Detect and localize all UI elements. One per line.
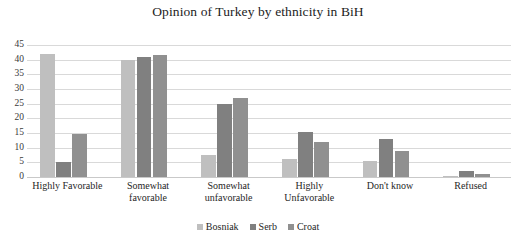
plot-area	[27, 45, 511, 177]
legend-item-bosniak[interactable]: Bosniak	[197, 221, 239, 232]
bar-croat-0	[72, 134, 87, 177]
x-axis-label-3: HighlyUnfavorable	[269, 180, 350, 204]
x-axis-label-line: unfavorable	[188, 192, 269, 204]
y-tick-label-10: 10	[15, 143, 25, 153]
legend-swatch-icon	[288, 224, 294, 230]
bar-croat-2	[233, 98, 248, 177]
bar-group-don-t-know	[350, 45, 431, 177]
y-tick-label-0: 0	[19, 172, 24, 182]
x-axis-label-line: Highly	[269, 180, 350, 192]
bar-serb-0	[56, 162, 71, 177]
y-tick-label-30: 30	[15, 84, 25, 94]
bar-croat-3	[314, 142, 329, 177]
x-axis-label-line: Refused	[430, 180, 511, 192]
legend-swatch-icon	[250, 224, 256, 230]
chart-title: Opinion of Turkey by ethnicity in BiH	[0, 4, 516, 20]
bar-bosniak-1	[121, 60, 136, 177]
legend-label: Serb	[259, 221, 277, 232]
x-axis-label-line: Highly Favorable	[27, 180, 108, 192]
bar-group-highly-favorable	[27, 45, 108, 177]
bar-serb-4	[379, 139, 394, 177]
y-tick-label-15: 15	[15, 128, 25, 138]
y-tick-label-35: 35	[15, 70, 25, 80]
bar-bosniak-2	[201, 155, 216, 177]
bar-group-highly-unfavorable	[269, 45, 350, 177]
legend-item-serb[interactable]: Serb	[250, 221, 277, 232]
y-tick-label-40: 40	[15, 55, 25, 65]
bar-croat-5	[475, 174, 490, 177]
x-axis-label-line: Somewhat	[188, 180, 269, 192]
bar-serb-5	[459, 171, 474, 177]
x-axis-label-5: Refused	[430, 180, 511, 192]
bars-layer	[27, 45, 511, 177]
bar-group-refused	[430, 45, 511, 177]
bar-serb-1	[137, 57, 152, 177]
bar-group-somewhat-favorable	[108, 45, 189, 177]
chart-container: Opinion of Turkey by ethnicity in BiH 05…	[0, 0, 516, 241]
y-axis: 051015202530354045	[0, 45, 24, 177]
x-axis-label-2: Somewhatunfavorable	[188, 180, 269, 204]
x-axis-label-line: Somewhat	[108, 180, 189, 192]
x-axis-label-line: Unfavorable	[269, 192, 350, 204]
bar-croat-4	[395, 151, 410, 177]
legend-label: Croat	[297, 221, 319, 232]
bar-bosniak-4	[363, 161, 378, 177]
bar-croat-1	[153, 55, 168, 177]
x-axis-label-line: favorable	[108, 192, 189, 204]
x-axis-label-line: Don't know	[350, 180, 431, 192]
legend-label: Bosniak	[206, 221, 239, 232]
legend-item-croat[interactable]: Croat	[288, 221, 319, 232]
legend-swatch-icon	[197, 224, 203, 230]
bar-group-somewhat-unfavorable	[188, 45, 269, 177]
bar-bosniak-3	[282, 159, 297, 177]
x-axis-label-0: Highly Favorable	[27, 180, 108, 192]
bar-serb-2	[217, 104, 232, 177]
chart-legend: BosniakSerbCroat	[0, 221, 516, 232]
y-tick-label-25: 25	[15, 99, 25, 109]
x-axis-label-1: Somewhatfavorable	[108, 180, 189, 204]
bar-bosniak-0	[40, 54, 55, 177]
bar-serb-3	[298, 132, 313, 177]
x-axis-category-labels: Highly FavorableSomewhatfavorableSomewha…	[27, 180, 511, 214]
x-axis-label-4: Don't know	[350, 180, 431, 192]
bar-bosniak-5	[443, 176, 458, 177]
y-tick-label-20: 20	[15, 114, 25, 124]
gridline-0	[27, 177, 511, 178]
y-tick-label-45: 45	[15, 40, 25, 50]
y-tick-label-5: 5	[19, 158, 24, 168]
